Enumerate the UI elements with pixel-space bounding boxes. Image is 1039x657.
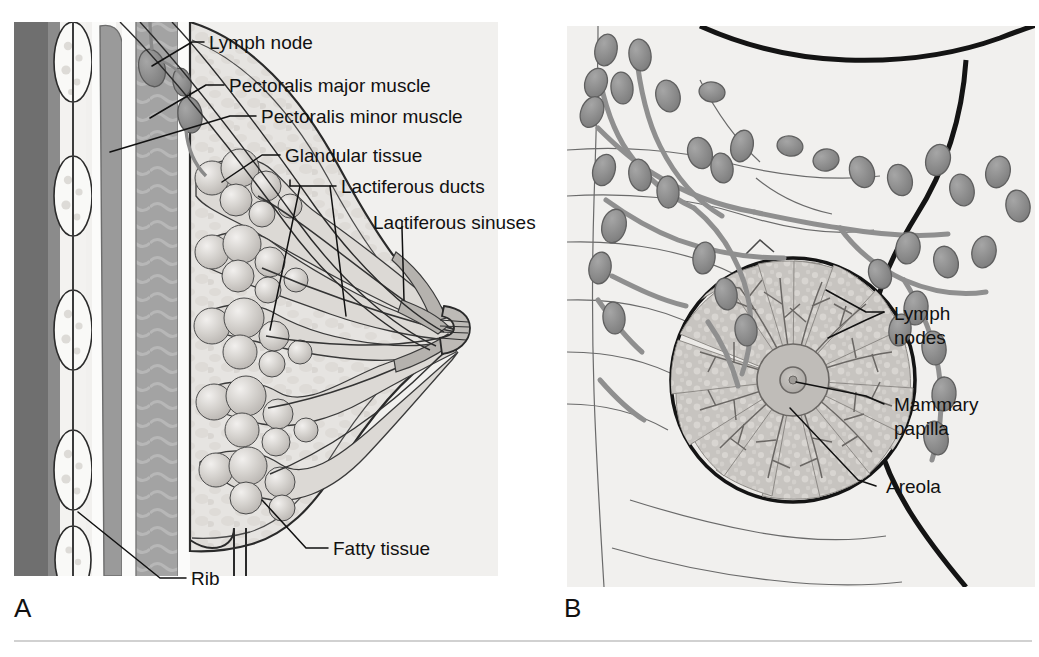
papilla-center bbox=[789, 376, 797, 384]
label-fatty-tissue: Fatty tissue bbox=[333, 538, 430, 559]
label-lymph-node: Lymph node bbox=[209, 32, 313, 53]
label-pectoralis-major-muscle: Pectoralis major muscle bbox=[229, 75, 431, 96]
label-pectoralis-minor-muscle: Pectoralis minor muscle bbox=[261, 106, 463, 127]
figure-root: Lymph node Pectoralis major muscle Pecto… bbox=[0, 0, 1039, 657]
panel-letter-b: B bbox=[564, 593, 581, 623]
label-rib: Rib bbox=[191, 568, 220, 589]
anatomy-figure-svg: Lymph node Pectoralis major muscle Pecto… bbox=[0, 0, 1039, 657]
label-areola: Areola bbox=[886, 476, 941, 497]
label-glandular-tissue: Glandular tissue bbox=[285, 145, 422, 166]
label-lymph-nodes-line2: nodes bbox=[894, 327, 946, 348]
thoracic-cavity-shadow bbox=[14, 22, 48, 576]
pectoralis-minor-muscle-shape bbox=[100, 25, 122, 576]
panel-letter-a: A bbox=[14, 593, 32, 623]
panel-b bbox=[567, 25, 1036, 587]
label-mammary-papilla-line2: papilla bbox=[894, 418, 949, 439]
label-lactiferous-ducts: Lactiferous ducts bbox=[341, 176, 485, 197]
label-lactiferous-sinuses: Lactiferous sinuses bbox=[373, 212, 536, 233]
label-lymph-nodes-line1: Lymph bbox=[894, 303, 950, 324]
label-mammary-papilla-line1: Mammary bbox=[894, 394, 979, 415]
fascia-plane-superficial bbox=[122, 22, 136, 576]
